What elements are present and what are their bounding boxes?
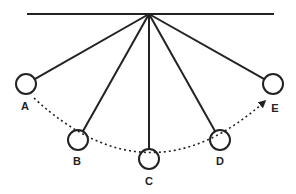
label-e: E — [271, 102, 278, 114]
label-a: A — [21, 100, 29, 112]
string-a — [35, 14, 149, 79]
label-d: D — [216, 155, 224, 167]
pendulum-diagram: ABCDE — [0, 0, 296, 194]
string-b — [83, 14, 149, 131]
bob-b — [68, 130, 88, 150]
label-c: C — [145, 175, 153, 187]
bob-d — [210, 130, 230, 150]
label-b: B — [73, 155, 81, 167]
bob-a — [16, 74, 36, 94]
bob-e — [263, 74, 283, 94]
